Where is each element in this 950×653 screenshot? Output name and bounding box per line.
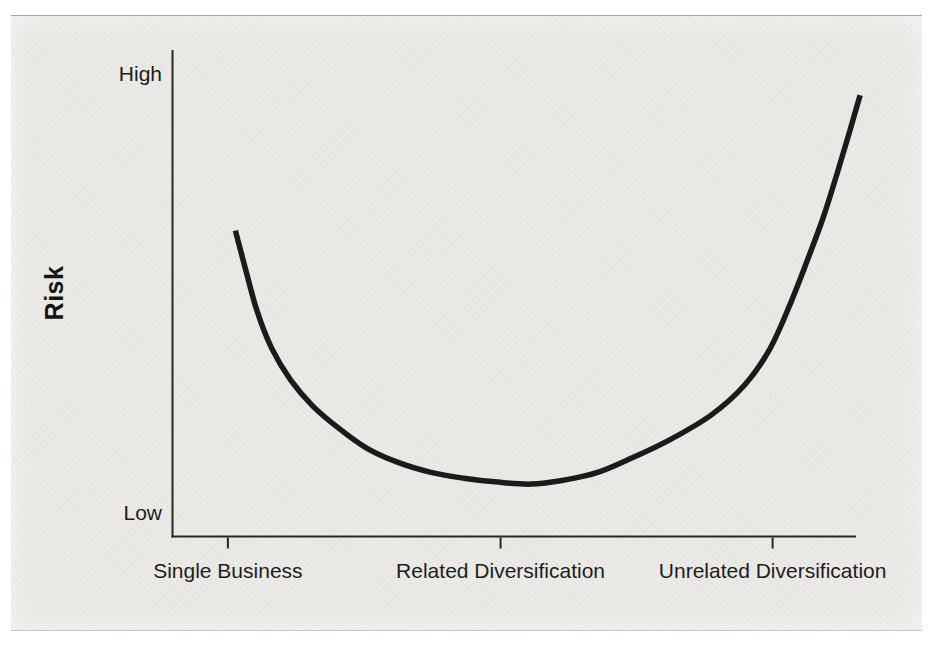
y-axis-high-label: High bbox=[84, 62, 162, 86]
x-axis-label-single-business: Single Business bbox=[153, 559, 302, 583]
y-axis-low-label: Low bbox=[84, 501, 162, 525]
risk-curve-chart bbox=[0, 0, 950, 653]
risk-curve bbox=[235, 95, 860, 484]
x-axis-label-related-diversification: Related Diversification bbox=[396, 559, 605, 583]
x-axis-label-unrelated-diversification: Unrelated Diversification bbox=[659, 559, 887, 583]
scanned-page: High Low Risk Single Business Related Di… bbox=[0, 0, 950, 653]
y-axis-title: Risk bbox=[40, 266, 69, 321]
